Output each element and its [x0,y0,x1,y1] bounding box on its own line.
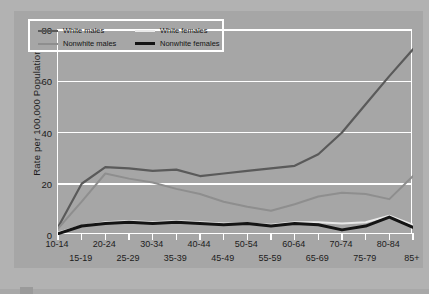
x-tick-label: 70-74 [329,239,352,249]
legend-entry-nonwhite-males: Nonwhite males [38,39,116,48]
x-tick-label: 35-39 [164,253,187,263]
data-lines [58,30,413,235]
chart-legend: White males White females Nonwhite males… [28,19,224,52]
legend-swatch-nonwhite-females [135,42,155,45]
x-tick-label: 85+ [404,253,419,263]
legend-label-white-females: White females [160,26,208,35]
x-tick-label: 50-54 [235,239,258,249]
legend-entry-white-females: White females [135,26,208,35]
x-tick-label: 30-34 [140,239,163,249]
legend-swatch-nonwhite-males [38,43,58,45]
x-tick-label: 20-24 [93,239,116,249]
legend-swatch-white-females [135,30,155,32]
legend-swatch-white-males [38,30,58,32]
x-tick-label: 40-44 [187,239,210,249]
legend-label-nonwhite-males: Nonwhite males [63,39,116,48]
corner-mark [20,287,33,294]
x-tick-label: 45-49 [211,253,234,263]
legend-entry-white-males: White males [38,26,104,35]
x-tick-label: 15-19 [69,253,92,263]
x-tick-label: 80-84 [377,239,400,249]
legend-label-white-males: White males [63,26,104,35]
series-line-white-males [58,49,413,227]
x-tick-label: 65-69 [306,253,329,263]
legend-label-nonwhite-females: Nonwhite females [160,39,220,48]
series-line-nonwhite-males [58,174,413,229]
x-tick-label: 10-14 [45,239,68,249]
x-tick-label: 60-64 [282,239,305,249]
legend-entry-nonwhite-females: Nonwhite females [135,39,220,48]
y-tick-label: 20 [41,178,52,189]
y-axis-title: Rate per 100,000 Population [31,28,42,198]
chart-plate: Rate per 100,000 Population 020406080 10… [14,11,423,268]
x-tick-label: 55-59 [258,253,281,263]
plot-area: 020406080 [57,29,412,234]
series-line-nonwhite-females [58,217,413,234]
x-tick-label: 75-79 [353,253,376,263]
y-tick-label: 40 [41,127,52,138]
x-tick-label: 25-29 [116,253,139,263]
y-tick-label: 60 [41,76,52,87]
